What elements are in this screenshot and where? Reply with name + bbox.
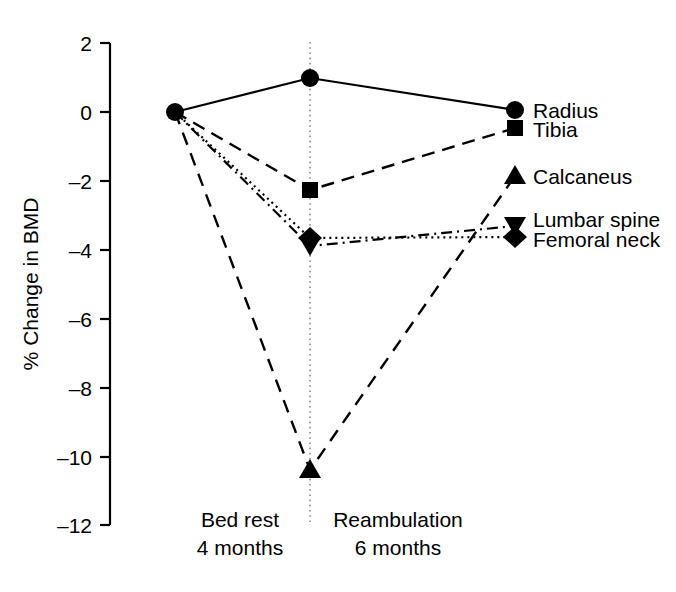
y-tick-label-minus-8: –8	[69, 377, 92, 400]
marker-origin-point	[166, 103, 184, 121]
y-axis-title: % Change in BMD	[19, 198, 42, 371]
y-tick-label-minus-10: –10	[57, 446, 92, 469]
xcat-bedrest-line1: Bed rest	[201, 508, 279, 531]
series-label-tibia: Tibia	[533, 118, 578, 141]
series-line-calcaneus	[175, 112, 515, 470]
figure-container: 2 0 –2 –4 –6 –8 –10 –12 % Change in BMD	[0, 0, 676, 592]
y-tick-label-minus-4: –4	[69, 239, 93, 262]
series-line-femoral-neck	[175, 112, 515, 238]
xcat-reambulation-line1: Reambulation	[333, 508, 463, 531]
marker-tibia-bedrest	[302, 182, 318, 198]
series-label-femoral-neck: Femoral neck	[533, 228, 661, 251]
series-line-radius	[175, 78, 515, 112]
marker-tibia-reambulation	[507, 120, 523, 136]
marker-calcaneus-bedrest	[299, 459, 321, 478]
marker-radius-bedrest	[301, 69, 319, 87]
bmd-line-chart: 2 0 –2 –4 –6 –8 –10 –12 % Change in BMD	[0, 0, 676, 592]
y-tick-label-minus-12: –12	[57, 514, 92, 537]
xcat-bedrest-line2: 4 months	[197, 536, 283, 559]
y-tick-label-2: 2	[80, 32, 92, 55]
series-line-tibia	[175, 112, 515, 190]
y-tick-label-minus-2: –2	[69, 170, 92, 193]
marker-femoral-neck-bedrest	[298, 227, 322, 249]
marker-calcaneus-reambulation	[504, 165, 526, 184]
series-label-calcaneus: Calcaneus	[533, 165, 632, 188]
marker-femoral-neck-reambulation	[503, 226, 527, 248]
y-tick-label-0: 0	[80, 101, 92, 124]
marker-radius-reambulation	[506, 101, 524, 119]
y-tick-label-minus-6: –6	[69, 308, 92, 331]
xcat-reambulation-line2: 6 months	[355, 536, 441, 559]
